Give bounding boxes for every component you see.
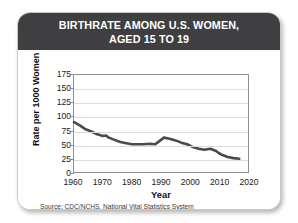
gridline xyxy=(74,160,248,161)
y-axis-tick-label: 100 xyxy=(45,111,71,121)
y-axis-tick-label: 125 xyxy=(45,97,71,107)
y-axis-tick-label: 50 xyxy=(45,140,71,150)
chart-title-line-2: AGED 15 TO 19 xyxy=(109,32,189,45)
y-axis-tick-label: 25 xyxy=(45,154,71,164)
chart-plot-region: Rate per 1000 Women 0255075100125150175 … xyxy=(18,50,280,209)
x-axis-label: Year xyxy=(73,189,249,200)
gridline xyxy=(74,146,248,147)
x-axis-tick-label: 2020 xyxy=(239,177,258,187)
gridline xyxy=(74,103,248,104)
chart-card: BIRTHRATE AMONG U.S. WOMEN, AGED 15 TO 1… xyxy=(17,12,281,210)
gridline xyxy=(74,132,248,133)
x-axis-tick-label: 1970 xyxy=(93,177,112,187)
chart-title-line-1: BIRTHRATE AMONG U.S. WOMEN, xyxy=(59,18,239,31)
y-axis-tick-label: 75 xyxy=(45,126,71,136)
x-axis-tick-label: 1980 xyxy=(122,177,141,187)
y-axis-ticks: 0255075100125150175 xyxy=(44,74,71,173)
series-birthrate-line xyxy=(74,122,239,159)
source-note: Source: CDC/NCHS, National Vital Statist… xyxy=(40,203,194,210)
x-axis-tick-label: 2010 xyxy=(210,177,229,187)
gridline xyxy=(74,89,248,90)
x-axis-tick-label: 1990 xyxy=(151,177,170,187)
y-axis-label: Rate per 1000 Women xyxy=(31,60,41,146)
chart-title-banner: BIRTHRATE AMONG U.S. WOMEN, AGED 15 TO 1… xyxy=(18,13,280,50)
gridline xyxy=(74,117,248,118)
y-axis-tick-label: 175 xyxy=(45,69,71,79)
plot-area xyxy=(73,74,249,173)
x-axis-tick-label: 2000 xyxy=(181,177,200,187)
y-axis-tick-label: 150 xyxy=(45,83,71,93)
x-axis-tick-label: 1960 xyxy=(63,177,82,187)
